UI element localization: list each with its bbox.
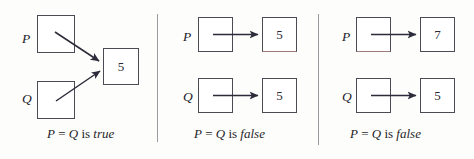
- panel-3-box-q: [356, 78, 391, 113]
- panel-divider-2: [318, 14, 319, 145]
- panel-1-label-p: P: [22, 32, 30, 46]
- panel-3-caption-operator: =: [361, 126, 368, 141]
- panel-3-caption-rhs: Q: [372, 126, 381, 141]
- panel-3-label-p: P: [342, 30, 350, 44]
- panel-1-caption-result: true: [93, 126, 114, 141]
- panel-2-box-q: [198, 78, 233, 113]
- panel-3-caption-result: false: [396, 126, 421, 141]
- panel-3-label-q: Q: [342, 90, 352, 104]
- panel-2-caption-lhs: P: [194, 126, 202, 141]
- panel-3: P 7 Q 5 P = Q is false: [318, 0, 474, 159]
- panel-1: P Q 5 P = Q is true: [0, 0, 157, 159]
- panel-2-label-q: Q: [183, 90, 193, 104]
- figure-container: P Q 5 P = Q is true P 5 Q 5 P = Q: [0, 0, 474, 159]
- panel-2: P 5 Q 5 P = Q is false: [157, 0, 318, 159]
- panel-1-shared-object-box: [103, 48, 139, 85]
- panel-3-caption-verb: is: [384, 126, 393, 141]
- panel-1-caption: P = Q is true: [47, 127, 114, 140]
- panel-2-box-p: [198, 17, 233, 52]
- panel-1-caption-verb: is: [81, 126, 90, 141]
- panel-3-target-q-box: [420, 78, 455, 113]
- panel-2-caption-operator: =: [205, 126, 212, 141]
- panel-1-caption-operator: =: [58, 126, 65, 141]
- panel-2-caption-result: false: [240, 126, 265, 141]
- panel-1-caption-rhs: Q: [69, 126, 78, 141]
- panel-3-target-p-box: [420, 17, 455, 52]
- panel-1-label-q: Q: [22, 92, 32, 106]
- panel-2-caption: P = Q is false: [194, 127, 265, 140]
- panel-divider-1: [157, 14, 158, 142]
- panel-2-caption-verb: is: [228, 126, 237, 141]
- panel-1-box-q: [37, 81, 75, 119]
- panel-2-caption-rhs: Q: [216, 126, 225, 141]
- panel-3-caption-lhs: P: [350, 126, 358, 141]
- panel-2-target-q-box: [262, 78, 297, 113]
- panel-1-caption-lhs: P: [47, 126, 55, 141]
- panel-3-caption: P = Q is false: [350, 127, 421, 140]
- panel-2-label-p: P: [183, 30, 191, 44]
- panel-3-box-p: [356, 17, 391, 52]
- panel-1-box-p: [37, 15, 75, 53]
- panel-2-target-p-box: [262, 17, 297, 52]
